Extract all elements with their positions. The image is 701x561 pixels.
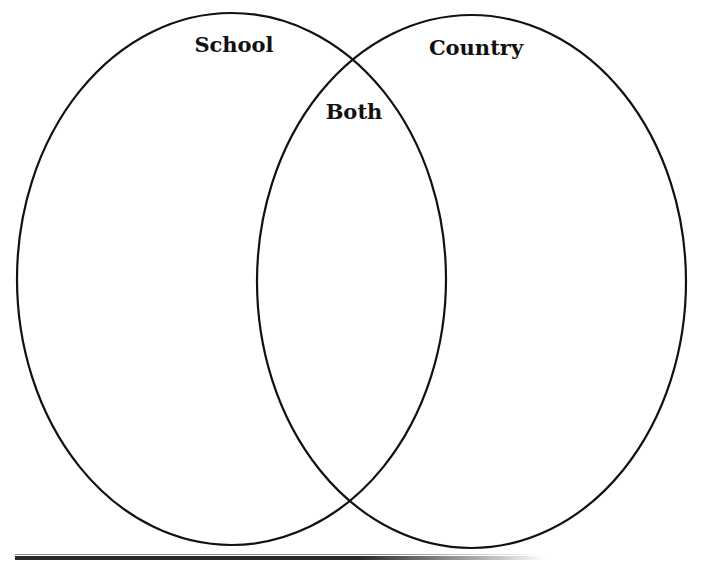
both-label: Both — [326, 99, 383, 124]
country-set-ellipse — [257, 15, 686, 548]
venn-diagram: School Country Both — [0, 0, 701, 561]
country-label: Country — [429, 35, 524, 60]
bottom-rule-divider — [15, 556, 545, 560]
school-set-ellipse — [17, 13, 446, 545]
school-label: School — [194, 32, 273, 57]
